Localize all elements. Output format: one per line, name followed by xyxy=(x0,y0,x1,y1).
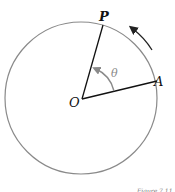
unit-circle-diagram: P A O θ Figure 7.11 xyxy=(0,0,175,192)
radius-OA xyxy=(82,81,157,99)
label-A: A xyxy=(153,74,163,89)
figure-caption: Figure 7.11 xyxy=(136,187,172,192)
radius-OP xyxy=(82,25,103,99)
circle xyxy=(5,22,157,174)
label-theta: θ xyxy=(111,67,118,80)
counterclockwise-arrow-icon xyxy=(133,29,152,50)
label-O: O xyxy=(69,95,80,110)
label-P: P xyxy=(98,9,110,24)
